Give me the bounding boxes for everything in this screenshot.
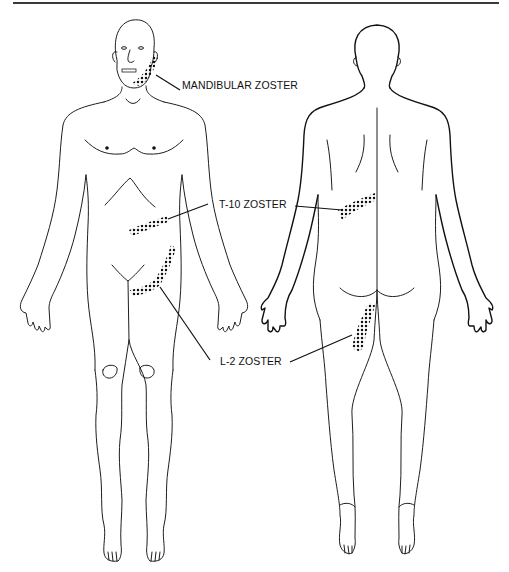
mandibular-zoster-label: MANDIBULAR ZOSTER [182,79,298,91]
l2-zoster-label: L-2 ZOSTER [220,355,282,367]
t10-zoster-patch-anterior [129,216,168,236]
l2-zoster-patch-posterior [352,303,375,352]
l2-leader-line-posterior [290,335,352,362]
l2-leader-line-anterior [160,287,210,360]
posterior-figure [261,25,493,554]
t10-leader-line-anterior [168,204,208,219]
t10-zoster-label: T-10 ZOSTER [219,198,287,210]
l2-zoster-patch-anterior [130,245,176,296]
t10-zoster-patch-posterior [338,193,376,220]
mandibular-zoster-patch [131,55,158,86]
dermatome-figure: MANDIBULAR ZOSTER T-10 ZOSTER L-2 ZOSTER [0,0,509,572]
mandibular-leader-line [156,75,180,90]
